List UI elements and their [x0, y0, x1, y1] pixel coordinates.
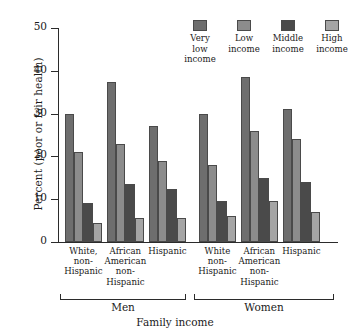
bar	[227, 216, 236, 242]
group-bracket	[60, 294, 186, 300]
category-label-line: non-	[100, 266, 150, 276]
y-tick-label: 0	[40, 234, 47, 246]
bar	[177, 218, 186, 242]
bar	[93, 223, 102, 242]
bar	[158, 161, 167, 242]
bar	[311, 212, 320, 242]
bar-chart: Percent (poor or fair health) Very lowin…	[0, 0, 350, 336]
bar	[107, 82, 116, 243]
bar	[135, 218, 144, 242]
category-label-line: Hispanic	[234, 277, 284, 287]
bar	[125, 184, 134, 242]
category-label-line: Hispanic	[276, 246, 326, 256]
bar	[292, 139, 301, 242]
bar	[74, 152, 83, 242]
bar-series-container	[59, 28, 338, 242]
bar	[250, 131, 259, 242]
bar	[283, 109, 292, 242]
category-label-line: American	[100, 256, 150, 266]
y-tick: 20	[51, 156, 58, 157]
y-tick-label: 50	[34, 20, 47, 32]
category-label: Hispanic	[276, 246, 326, 256]
bar	[241, 77, 250, 242]
category-label-line: non-	[234, 266, 284, 276]
y-tick: 30	[51, 114, 58, 115]
y-tick: 0	[51, 242, 58, 243]
y-tick: 40	[51, 71, 58, 72]
x-axis-category-labels: White,non-HispanicAfricanAmericannon-His…	[58, 246, 338, 292]
y-tick-label: 30	[34, 106, 47, 118]
group-bracket	[194, 294, 334, 300]
category-label: Hispanic	[142, 246, 192, 256]
bar	[149, 126, 158, 242]
x-axis-title: Family income	[0, 316, 350, 328]
y-tick-label: 20	[34, 148, 47, 160]
bar	[217, 201, 226, 242]
bar	[269, 201, 278, 242]
x-axis-line	[58, 242, 338, 243]
bar	[259, 178, 268, 242]
bar	[301, 182, 310, 242]
category-label-line: Hispanic	[100, 277, 150, 287]
y-tick-label: 40	[34, 63, 47, 75]
bar	[83, 203, 92, 242]
y-tick: 50	[51, 28, 58, 29]
category-label-line: American	[234, 256, 284, 266]
y-tick-label: 10	[34, 191, 47, 203]
bar	[208, 165, 217, 242]
bar	[65, 114, 74, 242]
bar	[116, 144, 125, 242]
plot-area: 01020304050	[58, 28, 338, 243]
bar	[199, 114, 208, 242]
category-label-line: Hispanic	[142, 246, 192, 256]
group-label: Men	[60, 301, 186, 313]
group-label: Women	[194, 301, 334, 313]
y-tick: 10	[51, 199, 58, 200]
bar	[167, 189, 176, 243]
